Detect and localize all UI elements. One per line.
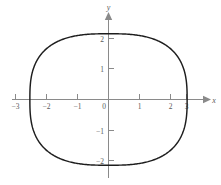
y-tick-label-neg1: −1 — [96, 127, 104, 136]
graph-figure: −3 −2 −1 0 1 2 3 2 1 −1 −2 x y — [0, 0, 221, 185]
y-tick-label-neg2: −2 — [96, 157, 104, 166]
x-axis-arrow-icon — [203, 96, 211, 103]
x-axis-title: x — [211, 96, 216, 105]
x-tick-label-neg3: −3 — [12, 102, 20, 111]
y-tick-label-1: 1 — [100, 65, 104, 74]
x-tick-label-neg1: −1 — [74, 102, 82, 111]
x-tick-label-1: 1 — [138, 102, 142, 111]
x-tick-label-neg2: −2 — [43, 102, 51, 111]
x-tick-label-2: 2 — [169, 102, 173, 111]
y-axis-arrow-icon — [105, 12, 112, 20]
y-axis-title: y — [106, 3, 111, 12]
origin-label: 0 — [102, 102, 106, 111]
superellipse-plot: −3 −2 −1 0 1 2 3 2 1 −1 −2 x y — [0, 0, 221, 185]
y-tick-label-2: 2 — [100, 35, 104, 44]
